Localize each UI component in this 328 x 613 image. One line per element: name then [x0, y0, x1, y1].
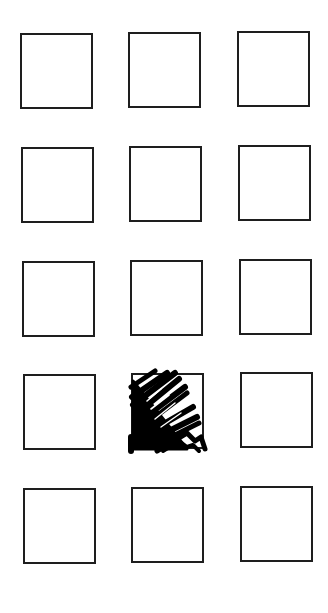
checkbox-r5-c1[interactable]	[23, 488, 96, 564]
checkbox-r2-c3[interactable]	[238, 145, 311, 221]
checkbox-r2-c1[interactable]	[21, 147, 94, 223]
scribble-mark-icon	[127, 367, 211, 455]
checkbox-r4-c2-marked[interactable]	[131, 373, 204, 449]
checkbox-r2-c2[interactable]	[129, 146, 202, 222]
checkbox-r3-c2[interactable]	[130, 260, 203, 336]
checkbox-r1-c2[interactable]	[128, 32, 201, 108]
checkbox-r4-c3[interactable]	[240, 372, 313, 448]
checkbox-r5-c2[interactable]	[131, 487, 204, 563]
checkbox-r4-c1[interactable]	[23, 374, 96, 450]
checkbox-grid	[0, 0, 328, 613]
checkbox-r5-c3[interactable]	[240, 486, 313, 562]
checkbox-r1-c1[interactable]	[20, 33, 93, 109]
checkbox-r3-c3[interactable]	[239, 259, 312, 335]
checkbox-r1-c3[interactable]	[237, 31, 310, 107]
checkbox-r3-c1[interactable]	[22, 261, 95, 337]
